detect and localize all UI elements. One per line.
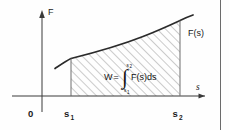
work-integral-diagram: F s 0 s 1 s 2 F(s) W = ∫ s 2 s 1 F(s)ds — [0, 0, 229, 130]
curve-label: F(s) — [188, 28, 204, 38]
formula-equals: = — [114, 72, 119, 82]
s2-subscript: 2 — [179, 114, 183, 121]
s1-tick-label: s 1 — [64, 108, 75, 121]
integral-upper-sub: 2 — [130, 64, 133, 69]
s2-base: s — [173, 108, 178, 119]
x-axis-label: s — [196, 82, 200, 92]
x-axis-arrowhead — [199, 93, 206, 98]
integral-lower-sub: 1 — [127, 90, 130, 95]
s1-subscript: 1 — [71, 114, 75, 121]
integrand: F(s)ds — [131, 72, 157, 82]
s1-base: s — [64, 108, 69, 119]
s2-tick-label: s 2 — [173, 108, 184, 121]
integral-symbol: ∫ — [120, 65, 129, 90]
y-axis-arrowhead — [39, 10, 45, 18]
figure-canvas: F s 0 s 1 s 2 F(s) W = ∫ s 2 s 1 F(s)ds — [0, 0, 229, 130]
origin-label: 0 — [28, 108, 33, 119]
y-axis-label: F — [48, 7, 54, 17]
formula-lhs: W — [104, 72, 113, 82]
